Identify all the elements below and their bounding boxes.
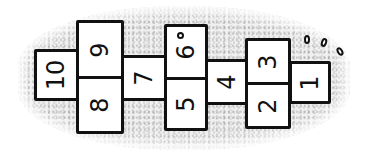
square-label: 2 (256, 98, 280, 113)
pebble-icon (304, 35, 310, 44)
square-label: 4 (215, 74, 239, 89)
square-label: 10 (44, 60, 68, 91)
square-10: 10 (34, 49, 79, 101)
square-5: 5 (164, 77, 208, 131)
pebble-icon (177, 32, 184, 39)
square-4: 4 (205, 59, 248, 105)
square-1: 1 (289, 61, 331, 104)
square-label: 7 (132, 70, 156, 85)
square-6: 6 (164, 24, 208, 80)
square-label: 9 (88, 42, 112, 57)
square-label: 1 (298, 75, 322, 90)
square-label: 3 (256, 54, 280, 69)
square-8: 8 (76, 76, 124, 134)
square-2: 2 (245, 82, 291, 129)
square-label: 6 (174, 44, 198, 59)
square-label: 5 (174, 96, 198, 111)
square-7: 7 (121, 55, 167, 101)
square-label: 8 (88, 97, 112, 112)
hopscotch-illustration: 10 9 8 7 6 5 4 3 2 1 (0, 0, 366, 154)
square-9: 9 (76, 20, 124, 79)
square-3: 3 (245, 38, 291, 85)
